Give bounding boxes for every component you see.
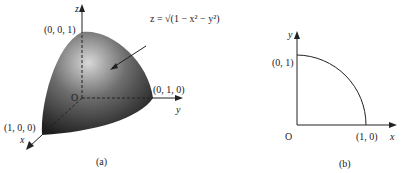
caption-a: (a): [96, 156, 107, 168]
quarter-circle-arc: [297, 55, 366, 125]
y-axis-label: y: [175, 104, 181, 115]
diagram-canvas: z (0, 0, 1) z = √(1 − x² − y²) O (0, 1, …: [0, 0, 402, 173]
point-z-top: (0, 0, 1): [44, 24, 76, 36]
figure-a: z (0, 0, 1) z = √(1 − x² − y²) O (0, 1, …: [4, 3, 220, 168]
y-axis-arrow-icon: [175, 95, 183, 101]
caption-b: (b): [339, 158, 351, 170]
point-y-end-b: (0, 1): [272, 57, 294, 69]
origin-label-b: O: [285, 131, 292, 142]
y-axis-arrow-icon-b: [294, 31, 300, 39]
z-axis-label: z: [74, 3, 79, 14]
x-axis-arrow-icon-b: [389, 122, 397, 128]
figure-b: y (0, 1) O (1, 0) x (b): [272, 29, 397, 170]
x-axis-arrow-icon: [26, 141, 34, 150]
surface-equation: z = √(1 − x² − y²): [150, 13, 220, 25]
point-x-end-b: (1, 0): [356, 131, 378, 143]
point-y-end: (0, 1, 0): [153, 84, 185, 96]
point-x-end: (1, 0, 0): [4, 122, 36, 134]
origin-label-a: O: [71, 92, 78, 103]
z-axis-arrow-icon: [79, 4, 85, 12]
y-axis-label-b: y: [287, 29, 293, 40]
x-axis-label-b: x: [389, 131, 395, 142]
x-axis-label: x: [19, 134, 25, 145]
